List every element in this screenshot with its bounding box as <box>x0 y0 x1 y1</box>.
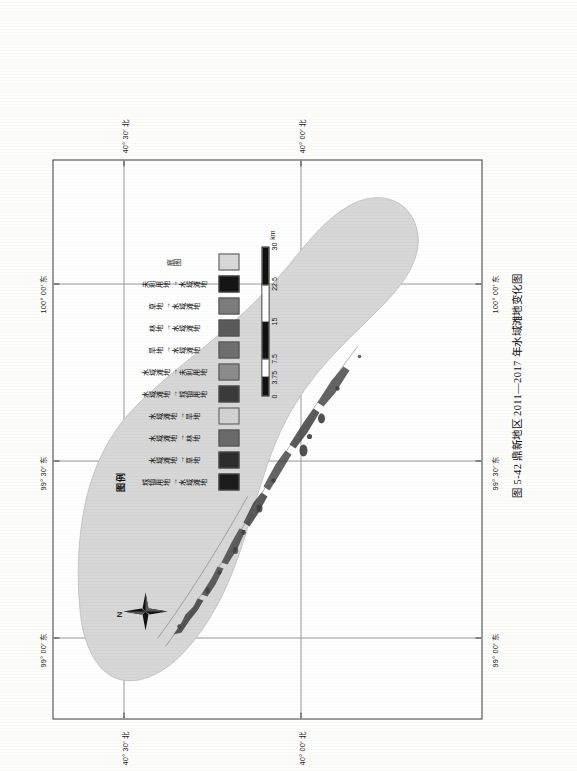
legend-item-label: 城镇用地→水域滩地 <box>130 478 216 486</box>
scale-bar-ticks: 0 3.75 7.5 15 22.5 30 km <box>270 246 282 396</box>
legend-item-label: 水域滩地→城镇用地 <box>130 390 216 398</box>
legend-swatch <box>218 276 239 293</box>
scale-bar: 0 3.75 7.5 15 22.5 30 km <box>261 246 282 396</box>
figure-stage: N 图例 城镇用地→水域滩地 <box>0 0 577 771</box>
legend: 图例 城镇用地→水域滩地 水域滩地→草地 水域滩地→林地 <box>113 242 239 492</box>
legend-item[interactable]: 草地→水域滩地 <box>130 296 239 316</box>
legend-item-label: 旱地→水域滩地 <box>130 346 216 354</box>
scale-bar-tick-label: 22.5 <box>270 277 277 291</box>
legend-item[interactable]: 水域滩地→林地 <box>130 428 239 448</box>
legend-item-label: 草地→水域滩地 <box>130 302 216 310</box>
graticule-label-longitude: 100° 00′ 东 <box>36 275 47 313</box>
legend-swatch <box>218 320 239 337</box>
legend-item-label: 水域滩地→旱地 <box>130 412 216 420</box>
graticule-tick <box>300 160 301 166</box>
legend-item[interactable]: 旱地→水域滩地 <box>130 340 239 360</box>
legend-title: 图例 <box>113 242 126 491</box>
graticule-tick <box>53 283 59 284</box>
legend-swatch <box>218 474 239 491</box>
graticule-label-longitude: 99° 00′ 东 <box>36 633 47 667</box>
graticule-label-latitude: 40° 30′ 北 <box>118 731 129 765</box>
legend-swatch <box>218 298 239 315</box>
scanned-page: N 图例 城镇用地→水域滩地 <box>0 0 577 771</box>
legend-item-label: 底图 <box>130 258 216 266</box>
north-arrow: N <box>115 588 173 634</box>
legend-item[interactable]: 底图 <box>130 252 239 272</box>
legend-item[interactable]: 城镇用地→水域滩地 <box>130 472 239 492</box>
legend-item[interactable]: 水域滩地→旱地 <box>130 406 239 426</box>
graticule-tick <box>475 460 481 461</box>
legend-item[interactable]: 水域滩地→城镇用地 <box>130 384 239 404</box>
scale-bar-segment <box>262 377 268 396</box>
graticule-label-latitude: 40° 00′ 北 <box>295 731 306 765</box>
scale-bar-segment <box>262 247 268 284</box>
legend-item[interactable]: 未利用地→水域滩地 <box>130 274 239 294</box>
graticule-tick <box>53 460 59 461</box>
graticule-label-latitude: 40° 30′ 北 <box>118 119 129 153</box>
scale-bar-graphic <box>261 246 269 396</box>
north-arrow-label: N <box>114 611 123 617</box>
legend-item[interactable]: 水域滩地→草地 <box>130 450 239 470</box>
legend-swatch <box>218 364 239 381</box>
scale-bar-segment <box>262 358 268 377</box>
legend-swatch <box>218 342 239 359</box>
legend-item[interactable]: 林地→水域滩地 <box>130 318 239 338</box>
scale-bar-segment <box>262 321 268 358</box>
graticule-label-longitude: 99° 00′ 东 <box>488 633 499 667</box>
scale-bar-tick-label: 0 <box>270 394 277 398</box>
graticule-label-latitude: 40° 00′ 北 <box>295 119 306 153</box>
legend-swatch <box>218 430 239 447</box>
legend-swatch <box>218 254 239 271</box>
graticule-tick <box>53 637 59 638</box>
scale-bar-tick-label: 7.5 <box>270 354 277 364</box>
legend-item-label: 水域滩地→林地 <box>130 434 216 442</box>
scale-bar-tick-label: 15 <box>270 317 277 325</box>
legend-swatch <box>218 386 239 403</box>
scale-bar-tick-label: 30 <box>270 242 277 250</box>
graticule-tick <box>475 283 481 284</box>
legend-item-label: 未利用地→水域滩地 <box>130 280 216 288</box>
graticule-label-longitude: 99° 30′ 东 <box>488 456 499 490</box>
legend-swatch <box>218 408 239 425</box>
graticule-tick <box>475 637 481 638</box>
scale-bar-segment <box>262 284 268 321</box>
figure-caption: 图 5-42 鼎新地区 2011—2017 年水域滩地变化图 <box>508 0 523 771</box>
legend-item[interactable]: 水域滩地→未利用地 <box>130 362 239 382</box>
legend-swatch <box>218 452 239 469</box>
graticule-label-longitude: 100° 00′ 东 <box>488 275 499 313</box>
graticule-tick <box>123 160 124 166</box>
legend-item-label: 水域滩地→未利用地 <box>130 368 216 376</box>
map-frame: N 图例 城镇用地→水域滩地 <box>52 159 482 719</box>
scale-bar-unit: km <box>268 230 275 239</box>
scale-bar-tick-label: 3.75 <box>270 370 277 384</box>
legend-item-label: 水域滩地→草地 <box>130 456 216 464</box>
graticule-tick <box>123 712 124 718</box>
graticule-label-longitude: 99° 30′ 东 <box>36 456 47 490</box>
graticule-tick <box>300 712 301 718</box>
legend-item-label: 林地→水域滩地 <box>130 324 216 332</box>
legend-items: 城镇用地→水域滩地 水域滩地→草地 水域滩地→林地 水域滩地→旱地 <box>130 242 239 492</box>
